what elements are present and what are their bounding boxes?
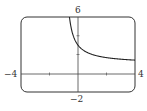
x-max-label: 4 [138, 69, 144, 79]
y-min-label: −2 [70, 94, 83, 104]
chart: −4 4 6 −2 [0, 0, 147, 111]
x-min-label: −4 [4, 69, 18, 79]
data-curve [69, 17, 135, 60]
y-max-label: 6 [75, 5, 81, 15]
